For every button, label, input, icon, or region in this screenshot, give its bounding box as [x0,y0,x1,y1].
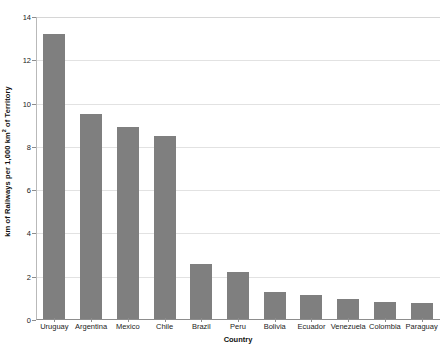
x-axis-tick-label: Bolivia [264,322,286,331]
plot-frame [36,17,440,320]
x-axis-ticks: UruguayArgentinaMexicoChileBrazilPeruBol… [36,322,440,336]
x-axis-tick-mark [348,318,349,322]
plot-area: 02468101214 [36,17,440,320]
x-axis-tick-label: Paraguay [406,322,438,331]
y-axis-tick-label: 10 [2,99,36,108]
x-axis-tick-mark [54,318,55,322]
x-axis-tick-mark [311,318,312,322]
x-axis-tick-mark [422,318,423,322]
y-axis-tick-label: 4 [2,229,36,238]
x-axis-tick-label: Uruguay [40,322,68,331]
bar-chart: km of Railways per 1,000 km2 of Territor… [0,0,448,348]
x-axis-tick-mark [201,318,202,322]
y-axis-tick-label: 14 [2,13,36,22]
x-axis-title: Country [36,335,440,344]
y-axis-tick-label: 8 [2,142,36,151]
x-axis-tick-mark [238,318,239,322]
y-axis-tick-label: 6 [2,186,36,195]
x-axis-tick-mark [91,318,92,322]
x-axis-tick-label: Ecuador [297,322,325,331]
x-axis-tick-mark [385,318,386,322]
x-axis-tick-mark [128,318,129,322]
y-axis-tick-label: 12 [2,56,36,65]
x-axis-tick-label: Brazil [192,322,211,331]
x-axis-tick-mark [165,318,166,322]
x-axis-tick-label: Chile [156,322,173,331]
x-axis-tick-label: Mexico [116,322,140,331]
x-axis-tick-mark [275,318,276,322]
y-axis-tick-label: 2 [2,272,36,281]
x-axis-tick-label: Peru [230,322,246,331]
x-axis-tick-label: Colombia [369,322,401,331]
x-axis-tick-label: Argentina [75,322,107,331]
x-axis-tick-label: Venezuela [331,322,366,331]
y-axis-tick-label: 0 [2,316,36,325]
y-axis-tick-mark [32,320,36,321]
